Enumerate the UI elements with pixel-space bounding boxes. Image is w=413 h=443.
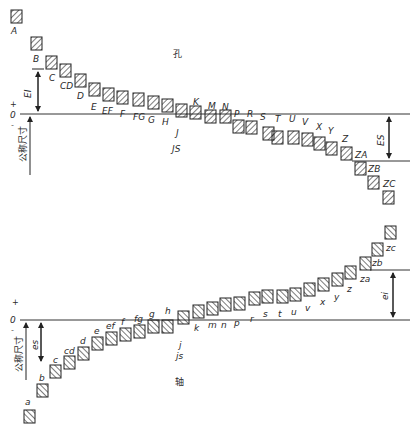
hole-box-K bbox=[190, 106, 201, 119]
shaft-label-m: m bbox=[208, 320, 217, 330]
hole-label-F: F bbox=[120, 109, 126, 119]
hole-label-S: S bbox=[260, 112, 266, 122]
shaft-minus-sign: - bbox=[11, 326, 14, 335]
hole-box-U bbox=[288, 131, 299, 144]
shaft-diagram: 轴 + 0 - 公称尺寸 es ei js abccddeefffgghjkmn… bbox=[10, 226, 410, 423]
hole-box-EF bbox=[103, 88, 114, 101]
shaft-label-z: z bbox=[346, 284, 352, 294]
shaft-box-h bbox=[162, 320, 173, 333]
shaft-label-n: n bbox=[221, 320, 227, 330]
hole-label-R: R bbox=[247, 109, 253, 119]
shaft-box-za bbox=[360, 257, 371, 270]
shaft-label-j: j bbox=[177, 340, 182, 350]
shaft-box-cd bbox=[64, 356, 75, 369]
shaft-plus-sign: + bbox=[12, 298, 19, 307]
fundamental-deviation-diagram: 孔 + 0 - 公称尺寸 EI ES JS ABCCDDEEFFFGGHJKMN… bbox=[0, 0, 413, 443]
shaft-js-label: js bbox=[174, 351, 184, 361]
shaft-label-v: v bbox=[305, 303, 311, 313]
shaft-box-n bbox=[220, 298, 231, 311]
hole-label-H: H bbox=[162, 117, 169, 127]
shaft-box-g bbox=[148, 320, 159, 333]
hole-label-D: D bbox=[77, 91, 84, 101]
shaft-label-g: g bbox=[149, 309, 155, 319]
shaft-box-j bbox=[178, 311, 189, 324]
shaft-box-f bbox=[120, 328, 131, 341]
hole-box-T bbox=[272, 131, 283, 144]
hole-label-EF: EF bbox=[102, 106, 114, 116]
hole-box-R bbox=[246, 121, 257, 134]
shaft-label-zc: zc bbox=[385, 243, 396, 253]
hole-label-G: G bbox=[148, 115, 155, 125]
shaft-title: 轴 bbox=[175, 376, 184, 387]
shaft-label-t: t bbox=[278, 309, 282, 319]
hole-box-E bbox=[89, 83, 100, 96]
shaft-box-e bbox=[92, 337, 103, 350]
hole-box-F bbox=[117, 91, 128, 104]
hole-box-CD bbox=[60, 64, 71, 77]
shaft-box-k bbox=[193, 305, 204, 318]
hole-box-J bbox=[176, 104, 187, 117]
shaft-label-c: c bbox=[53, 355, 58, 365]
hole-diagram: 孔 + 0 - 公称尺寸 EI ES JS ABCCDDEEFFFGGHJKMN… bbox=[10, 10, 410, 204]
hole-label-V: V bbox=[302, 117, 309, 127]
shaft-label-p: p bbox=[233, 318, 240, 328]
hole-box-V bbox=[302, 133, 313, 146]
hole-deviation-boxes: ABCCDDEEFFFGGHJKMNPRSTUVXYZZAZBZC bbox=[10, 10, 396, 204]
hole-label-J: J bbox=[174, 128, 179, 138]
shaft-box-p bbox=[234, 297, 245, 310]
hole-label-P: P bbox=[234, 109, 240, 119]
hole-title: 孔 bbox=[173, 49, 182, 59]
shaft-label-f: f bbox=[121, 317, 126, 327]
shaft-label-a: a bbox=[25, 397, 31, 407]
hole-box-H bbox=[162, 99, 173, 112]
shaft-box-r bbox=[249, 292, 260, 305]
shaft-label-x: x bbox=[319, 297, 326, 307]
shaft-basic-size-label: 公称尺寸 bbox=[13, 336, 24, 372]
shaft-box-z bbox=[345, 266, 356, 279]
shaft-label-fg: fg bbox=[134, 314, 143, 324]
hole-label-M: M bbox=[208, 101, 216, 111]
shaft-box-fg bbox=[134, 325, 145, 338]
shaft-label-k: k bbox=[194, 323, 200, 333]
shaft-box-a bbox=[24, 410, 35, 423]
shaft-label-h: h bbox=[165, 306, 171, 316]
hole-box-ZC bbox=[383, 191, 394, 204]
shaft-box-t bbox=[277, 290, 288, 303]
shaft-label-ef: ef bbox=[106, 321, 117, 331]
hole-label-FG: FG bbox=[133, 112, 145, 122]
shaft-es-label: es bbox=[30, 339, 40, 350]
hole-label-X: X bbox=[315, 122, 323, 132]
shaft-box-x bbox=[318, 278, 329, 291]
hole-es-label: ES bbox=[376, 134, 386, 146]
hole-box-Z bbox=[341, 147, 352, 160]
hole-label-E: E bbox=[91, 102, 97, 112]
shaft-box-y bbox=[332, 273, 343, 286]
hole-label-ZA: ZA bbox=[354, 150, 367, 160]
shaft-label-cd: cd bbox=[64, 346, 75, 356]
hole-plus-sign: + bbox=[10, 100, 17, 109]
hole-minus-sign: - bbox=[11, 121, 14, 130]
hole-box-FG bbox=[133, 93, 144, 106]
shaft-box-c bbox=[50, 365, 61, 378]
shaft-box-v bbox=[304, 283, 315, 296]
hole-box-P bbox=[233, 120, 244, 133]
hole-box-M bbox=[205, 110, 216, 123]
shaft-ei-label: ei bbox=[380, 291, 390, 300]
hole-label-T: T bbox=[275, 114, 282, 124]
shaft-box-zc bbox=[385, 226, 396, 239]
hole-label-ZB: ZB bbox=[367, 164, 380, 174]
shaft-label-u: u bbox=[291, 307, 297, 317]
hole-label-ZC: ZC bbox=[382, 179, 396, 189]
hole-label-Z: Z bbox=[341, 134, 349, 144]
shaft-box-s bbox=[262, 290, 273, 303]
hole-box-C bbox=[46, 56, 57, 69]
hole-zero-label: 0 bbox=[10, 110, 16, 120]
hole-box-A bbox=[11, 10, 22, 23]
shaft-label-r: r bbox=[250, 314, 255, 324]
shaft-box-b bbox=[37, 384, 48, 397]
shaft-zero-label: 0 bbox=[10, 315, 16, 325]
shaft-label-zb: zb bbox=[371, 258, 383, 268]
shaft-label-s: s bbox=[263, 309, 268, 319]
shaft-box-ef bbox=[106, 332, 117, 345]
shaft-label-b: b bbox=[39, 373, 45, 383]
